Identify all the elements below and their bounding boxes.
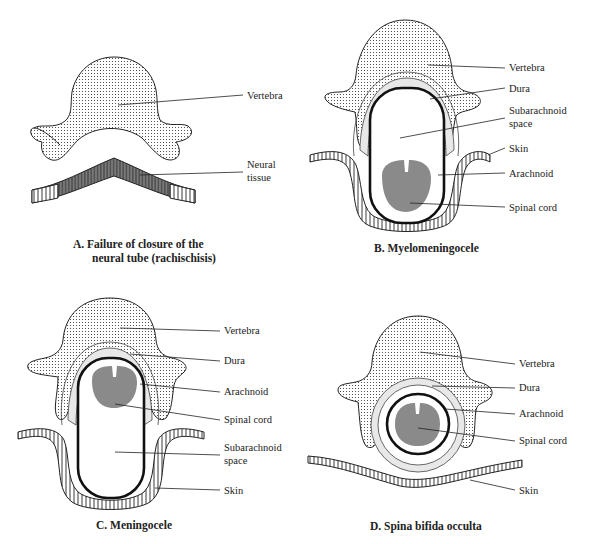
panel-b: Vertebra Dura Subarachnoid space Skin Ar… (310, 20, 567, 255)
label-skin: Skin (509, 143, 529, 154)
vertebra-shape (31, 57, 192, 160)
caption-b: B. Myelomeningocele (374, 242, 479, 255)
label-subarachnoid-line2: space (509, 118, 533, 129)
label-arachnoid: Arachnoid (509, 168, 554, 179)
caption-a-line1: A. Failure of closure of the (73, 238, 204, 250)
panel-a: Vertebra Neural tissue A. Failure of clo… (31, 57, 283, 265)
label-skin: Skin (519, 485, 539, 496)
caption-c: C. Meningocele (96, 519, 172, 532)
label-vertebra: Vertebra (519, 358, 555, 369)
label-subarachnoid-line1: Subarachnoid (509, 105, 567, 116)
label-spinal-cord: Spinal cord (509, 202, 558, 213)
caption-a-line2: neural tube (rachischisis) (92, 252, 216, 265)
panel-d: Vertebra Dura Arachnoid Spinal cord Skin… (308, 316, 568, 533)
label-vertebra: Vertebra (224, 325, 260, 336)
label-vertebra: Vertebra (509, 62, 545, 73)
label-subarachnoid-line2: space (224, 455, 248, 466)
panel-c: Vertebra Dura Arachnoid Spinal cord Suba… (18, 298, 282, 532)
label-arachnoid: Arachnoid (224, 386, 269, 397)
label-arachnoid: Arachnoid (519, 408, 564, 419)
spina-bifida-diagram: Vertebra Neural tissue A. Failure of clo… (0, 0, 593, 544)
label-subarachnoid-line1: Subarachnoid (224, 442, 282, 453)
label-neural-tissue-line1: Neural (247, 159, 276, 170)
caption-d: D. Spina bifida occulta (370, 520, 482, 533)
label-skin: Skin (224, 485, 244, 496)
label-neural-tissue-line2: tissue (247, 172, 271, 183)
label-spinal-cord: Spinal cord (224, 414, 273, 425)
label-spinal-cord: Spinal cord (519, 435, 568, 446)
label-vertebra: Vertebra (247, 90, 283, 101)
label-dura: Dura (224, 355, 245, 366)
label-dura: Dura (509, 83, 530, 94)
label-dura: Dura (519, 382, 540, 393)
